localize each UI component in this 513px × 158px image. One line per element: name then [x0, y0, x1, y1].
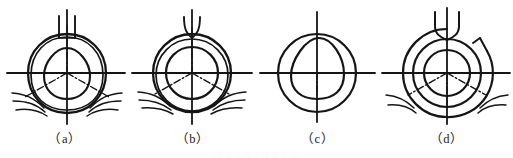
u-tube-right-d	[447, 12, 459, 40]
panel-c-drawing	[255, 0, 380, 130]
caption-b: （b）	[130, 128, 255, 147]
u-tube-left-d	[435, 12, 447, 40]
caption-d: （d）	[380, 128, 513, 147]
diagram-panel-c: （c）	[255, 0, 380, 158]
lead-lines-right-d	[478, 95, 508, 113]
caption-a: （a）	[0, 128, 130, 147]
diagram-panel-b: （b）	[130, 0, 255, 158]
diagram-panel-d: （d）	[380, 0, 513, 158]
figure-footnote: 图 3-5 轴承座剖视图	[0, 149, 513, 158]
notch-facet-d	[480, 38, 487, 51]
caption-c: （c）	[255, 128, 380, 147]
panel-a-drawing	[0, 0, 130, 130]
panel-b-drawing	[130, 0, 255, 130]
diagram-panel-a: （a）	[0, 0, 130, 158]
figure-root: （a）	[0, 0, 513, 158]
spoke-dashdot-group-d	[402, 73, 492, 105]
notch-edge-d	[473, 38, 480, 43]
panel-d-drawing	[380, 0, 513, 130]
